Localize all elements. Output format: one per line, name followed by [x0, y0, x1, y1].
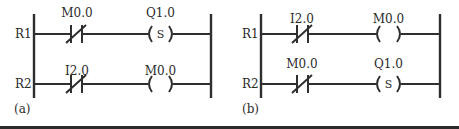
rung-r2: R2 M0.0 S Q1.0 — [242, 57, 440, 93]
ladder-diagram: R1 M0.0 S Q1.0 R2 — [0, 0, 459, 126]
panel-caption: (a) — [14, 102, 31, 116]
rung-r1: R1 I2.0 M0.0 — [242, 12, 440, 43]
contact-address: I2.0 — [290, 12, 314, 26]
coil-address: Q1.0 — [374, 57, 403, 71]
rung-label: R2 — [242, 77, 259, 91]
panel-caption: (b) — [242, 102, 259, 116]
bottom-border — [0, 126, 459, 129]
coil-address: M0.0 — [145, 64, 176, 78]
rung-r2: R2 I2.0 M0.0 — [15, 64, 211, 93]
contact-address: M0.0 — [61, 6, 92, 20]
rung-label: R1 — [15, 27, 32, 41]
panel-a: R1 M0.0 S Q1.0 R2 — [14, 6, 211, 116]
output-coil-icon — [377, 26, 400, 42]
coil-address: M0.0 — [373, 12, 404, 26]
output-coil-icon — [149, 76, 172, 92]
contact-address: I2.0 — [65, 64, 89, 78]
rung-label: R2 — [15, 77, 32, 91]
coil-symbol: S — [157, 28, 165, 41]
rung-r1: R1 M0.0 S Q1.0 — [15, 6, 211, 43]
coil-address: Q1.0 — [146, 6, 175, 20]
rung-label: R1 — [242, 27, 259, 41]
contact-address: M0.0 — [286, 57, 317, 71]
panel-b: R1 I2.0 M0.0 R2 M0 — [242, 12, 440, 116]
coil-symbol: S — [385, 78, 393, 91]
